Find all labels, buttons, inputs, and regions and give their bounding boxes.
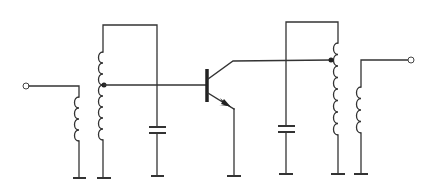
input-wire [29,86,79,97]
input-section [23,83,86,178]
input-coil-icon [75,97,80,141]
output-section [354,57,414,174]
output-wire [361,60,408,87]
input-tank-coil-icon [99,52,104,140]
output-coil-icon [357,87,362,133]
circuit-diagram [0,0,439,190]
transistor-icon [207,60,331,176]
output-tank-coil-icon [334,43,339,135]
output-tank [278,22,345,174]
output-terminal-icon [408,57,414,63]
input-terminal-icon [23,83,29,89]
collector-wire [208,60,331,79]
output-tank-top-wire [286,22,338,126]
input-tank [97,25,166,178]
tap-junction-icon [329,58,334,63]
input-tank-top-wire [103,25,157,127]
